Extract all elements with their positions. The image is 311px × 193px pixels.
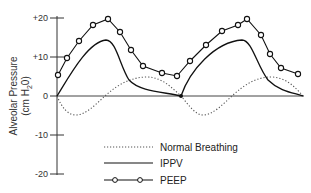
legend-label-ippv: IPPV bbox=[160, 158, 183, 169]
y-axis-label: Alveolar Pressure (cm H20) bbox=[8, 56, 33, 135]
svg-text:(cm H20): (cm H20) bbox=[20, 76, 33, 115]
ytick-label: 0 bbox=[43, 91, 48, 101]
legend-label-peep: PEEP bbox=[160, 175, 187, 186]
legend: Normal Breathing IPPV PEEP bbox=[104, 142, 238, 186]
svg-text:Alveolar Pressure: Alveolar Pressure bbox=[8, 56, 19, 135]
legend-swatch-peep bbox=[104, 178, 153, 183]
ytick-label: -20 bbox=[35, 169, 48, 179]
ytick-label: +20 bbox=[33, 13, 48, 23]
ytick-label: +10 bbox=[33, 52, 48, 62]
legend-label-normal: Normal Breathing bbox=[160, 142, 238, 153]
ytick-label: -10 bbox=[35, 130, 48, 140]
series-ippv bbox=[57, 40, 303, 96]
crossing-point bbox=[179, 94, 183, 98]
chart: +20 +10 0 -10 -20 Alveolar Pressure (cm … bbox=[0, 0, 311, 193]
